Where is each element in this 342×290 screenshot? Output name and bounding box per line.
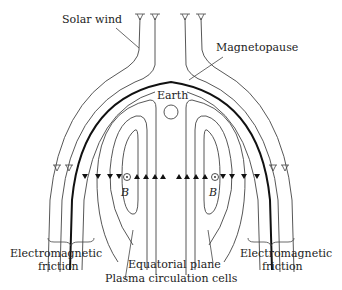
solar-wind-line-right-inner (185, 18, 280, 272)
magnetopause-leader (189, 57, 223, 80)
plasma-cell-right-inner (204, 130, 220, 215)
b-label-left: B (120, 186, 129, 199)
earth-label: Earth (157, 89, 188, 102)
solar-wind-leader (116, 28, 139, 48)
earth-icon (164, 105, 178, 119)
em-friction-right-line1: Electromagnetic (240, 247, 332, 260)
equatorial-flow-arrow-icons (82, 174, 260, 179)
magnetopause-label: Magnetopause (216, 41, 298, 54)
plasma-cell-left-inner (122, 130, 138, 215)
solar-wind-line-right-outer (201, 18, 294, 272)
field-out-of-page-icon-left (124, 174, 131, 181)
magnetopause-boundary (70, 82, 272, 270)
solar-wind-line-left-inner (60, 18, 155, 272)
plasma-cells-label: Plasma circulation cells (105, 272, 238, 285)
b-label-right: B (208, 186, 217, 199)
em-friction-left-line2: friction (38, 260, 79, 273)
equatorial-plane-label: Equatorial plane (128, 258, 221, 271)
em-friction-right-line2: friction (262, 260, 303, 273)
em-friction-left-line1: Electromagnetic (10, 247, 102, 260)
solar-wind-label: Solar wind (62, 13, 122, 26)
magnetosphere-diagram: B B Solar wind Magnetopause Earth Electr… (0, 0, 342, 290)
field-out-of-page-icon-right (212, 174, 219, 181)
